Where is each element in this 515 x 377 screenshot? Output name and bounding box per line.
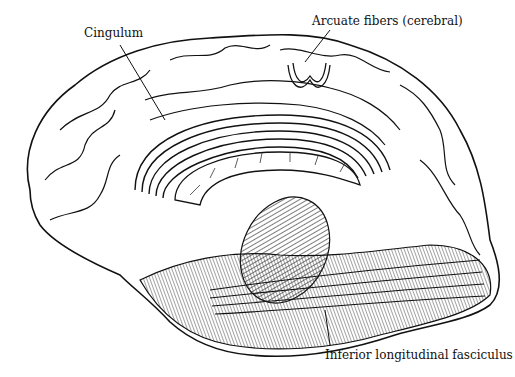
brain-illustration (0, 0, 515, 377)
label-cingulum: Cingulum (84, 26, 143, 40)
label-arcuate-fibers: Arcuate fibers (cerebral) (312, 14, 463, 28)
label-inferior-longitudinal-fasciculus: Inferior longitudinal fasciculus (325, 348, 513, 362)
